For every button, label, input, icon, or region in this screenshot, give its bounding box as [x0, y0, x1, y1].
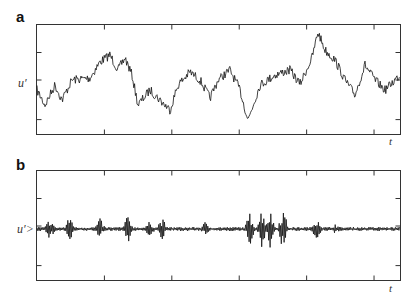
chart-canvas [0, 0, 418, 307]
panel-a-signal [37, 33, 399, 118]
panel-b-axes [37, 171, 401, 281]
panel-b-signal [37, 213, 400, 247]
